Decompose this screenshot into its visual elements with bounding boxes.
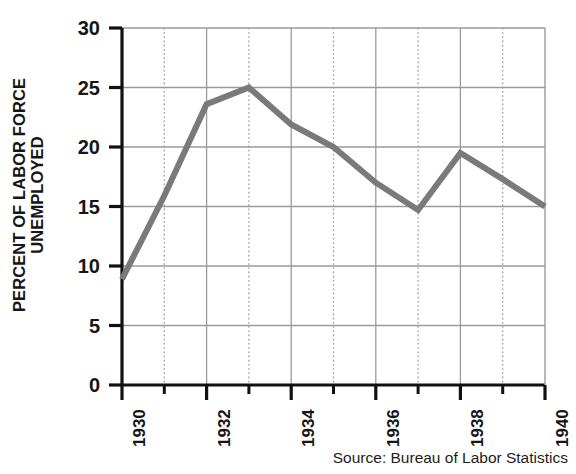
x-tick-label-1936: 1936 [384, 409, 404, 447]
source-note: Source: Bureau of Labor Statistics [333, 449, 568, 467]
x-tick-label-1932: 1932 [215, 409, 235, 447]
x-tick-label-1934: 1934 [299, 409, 319, 447]
unemployment-line-chart: PERCENT OF LABOR FORCE UNEMPLOYED 051015… [0, 0, 576, 474]
x-tick-label-1930: 1930 [130, 409, 150, 447]
y-axis-tick-marks [109, 28, 122, 385]
x-tick-label-1940: 1940 [553, 409, 573, 447]
x-axis-tick-marks [122, 385, 545, 400]
x-tick-label-1938: 1938 [468, 409, 488, 447]
plot-area [0, 0, 576, 474]
